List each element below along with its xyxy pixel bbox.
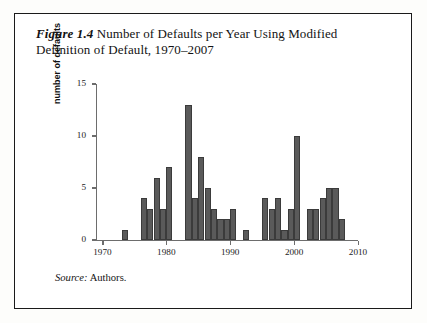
bar bbox=[332, 188, 338, 240]
x-tick-mark bbox=[294, 241, 295, 245]
bar bbox=[230, 209, 236, 240]
bar bbox=[269, 209, 275, 240]
bar bbox=[198, 157, 204, 240]
bar bbox=[243, 230, 249, 240]
figure-page: Figure 1.4 Number of Defaults per Year U… bbox=[0, 0, 427, 323]
bar bbox=[262, 198, 268, 240]
chart-plot-area: number of defaults 051015 19701980199020… bbox=[58, 84, 363, 246]
y-axis-label: number of defaults bbox=[52, 23, 62, 104]
y-tick-label: 0 bbox=[58, 234, 86, 244]
x-tick-label: 2010 bbox=[338, 247, 378, 257]
y-tick-label: 5 bbox=[58, 182, 86, 192]
bar bbox=[294, 136, 300, 240]
source-value: Authors. bbox=[88, 272, 127, 283]
x-tick-label: 1980 bbox=[146, 247, 186, 257]
bar bbox=[122, 230, 128, 240]
x-tick-label: 1990 bbox=[210, 247, 250, 257]
bar bbox=[217, 219, 223, 240]
bar bbox=[326, 188, 332, 240]
bar bbox=[160, 209, 166, 240]
bar bbox=[307, 209, 313, 240]
bar bbox=[205, 188, 211, 240]
source-label: Source: bbox=[55, 272, 88, 283]
x-tick-mark bbox=[230, 241, 231, 245]
bar bbox=[141, 198, 147, 240]
bar bbox=[211, 209, 217, 240]
bar bbox=[275, 198, 281, 240]
bar bbox=[224, 219, 230, 240]
bar bbox=[313, 209, 319, 240]
bar bbox=[288, 209, 294, 240]
bar bbox=[185, 105, 191, 240]
figure-source: Source: Authors. bbox=[55, 272, 126, 283]
x-axis-line bbox=[96, 240, 358, 241]
bar bbox=[154, 178, 160, 240]
x-tick-mark bbox=[358, 241, 359, 245]
x-tick-label: 2000 bbox=[274, 247, 314, 257]
x-tick-label: 1970 bbox=[82, 247, 122, 257]
figure-title: Figure 1.4 Number of Defaults per Year U… bbox=[36, 26, 381, 58]
bar-series bbox=[96, 84, 358, 240]
x-tick-mark bbox=[166, 241, 167, 245]
bar bbox=[281, 230, 287, 240]
bar bbox=[192, 198, 198, 240]
bar bbox=[339, 219, 345, 240]
figure-number: Figure 1.4 bbox=[36, 26, 93, 41]
bar bbox=[147, 209, 153, 240]
bar bbox=[320, 198, 326, 240]
x-tick-mark bbox=[102, 241, 103, 245]
bar bbox=[166, 167, 172, 240]
y-tick-label: 10 bbox=[58, 130, 86, 140]
y-tick-label: 15 bbox=[58, 78, 86, 88]
